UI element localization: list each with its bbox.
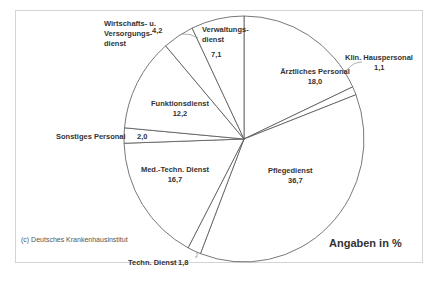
slice-name: Techn. Dienst: [128, 258, 177, 267]
slice-name-line1: Verwaltungs-: [202, 25, 249, 35]
slice-name: Funktionsdienst: [140, 99, 220, 109]
slice-name-line2: Versorgungs-: [104, 29, 156, 39]
value-sonstiges-personal: 2,0: [137, 132, 147, 142]
source-note: (c) Deutsches Krankenhausinstitut: [21, 236, 128, 243]
leader-line: [195, 252, 197, 257]
slice-value: 4,2: [152, 26, 162, 35]
slice-value: 12,2: [140, 109, 220, 119]
slice-name-line2: dienst: [202, 35, 249, 45]
label-wirtschafts-versorgungsdienst: Wirtschafts- u. Versorgungs- dienst: [104, 19, 156, 49]
slice-value: 1,1: [345, 63, 413, 73]
slice-name: Klin. Hauspersonal: [345, 53, 413, 63]
label-klin-hauspersonal: Klin. Hauspersonal 1,1: [345, 53, 413, 73]
slice-value: 2,0: [137, 132, 147, 141]
label-techn-dienst: Techn. Dienst: [128, 258, 177, 268]
slice-value: 36,7: [268, 176, 313, 186]
slice-value: 18,0: [260, 77, 370, 87]
slice-name: Sonstiges Personal: [56, 132, 126, 141]
value-wirtschafts-versorgungsdienst: 4,2: [152, 26, 162, 36]
label-med-techn-dienst: Med.-Techn. Dienst 16,7: [130, 165, 220, 185]
slice-value: 1,8: [178, 258, 188, 267]
label-verwaltungsdienst: Verwaltungs- dienst 7,1: [202, 25, 249, 60]
label-funktionsdienst: Funktionsdienst 12,2: [140, 99, 220, 119]
slice-name-line1: Wirtschafts- u.: [104, 19, 156, 29]
slice-name: Med.-Techn. Dienst: [130, 165, 220, 175]
value-techn-dienst: 1,8: [178, 258, 188, 268]
slice-name-line3: dienst: [104, 39, 156, 49]
label-pflegedienst: Pflegedienst 36,7: [268, 166, 313, 186]
slice-name: Pflegedienst: [268, 166, 313, 176]
slice-value: 7,1: [202, 50, 249, 60]
slice-value: 16,7: [130, 175, 220, 185]
label-sonstiges-personal: Sonstiges Personal: [56, 132, 126, 142]
unit-label: Angaben in %: [329, 237, 402, 249]
